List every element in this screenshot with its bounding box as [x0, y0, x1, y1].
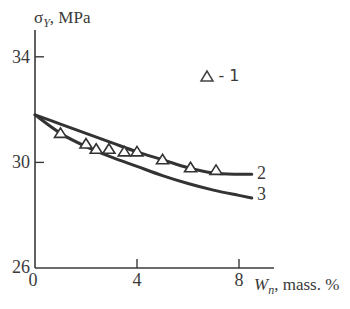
x-tick-label-4: 4	[127, 270, 147, 291]
tick-marks	[35, 57, 239, 268]
y-axis-label: σY, MPa	[34, 8, 90, 28]
x-tick-label-0: 0	[23, 270, 43, 291]
y-tick-label-34: 34	[2, 47, 30, 68]
curve-label-2: 2	[257, 163, 266, 184]
curve-label-3: 3	[257, 184, 266, 205]
triangle-marker-icon	[210, 165, 222, 174]
chart-plot	[0, 0, 350, 309]
curve-2	[35, 115, 252, 174]
triangle-marker-icon	[103, 144, 115, 153]
x-tick-label-8: 8	[229, 270, 249, 291]
legend-entry-1: △ - 1	[201, 66, 239, 85]
y-tick-label-30: 30	[2, 152, 30, 173]
x-axis-label: Wn, mass. %	[254, 275, 339, 295]
